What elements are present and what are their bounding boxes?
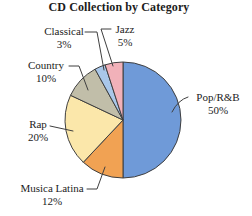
label-classical: Classical 3% (30, 25, 98, 51)
label-country: Country 10% (18, 59, 74, 85)
label-jazz-pct: 5% (105, 36, 145, 49)
label-jazz-name: Jazz (105, 23, 145, 36)
label-classical-pct: 3% (30, 38, 98, 51)
label-rap-pct: 20% (14, 131, 62, 144)
label-rap-name: Rap (14, 118, 62, 131)
label-jazz: Jazz 5% (105, 23, 145, 49)
label-musica-latina-name: Musica Latina (6, 182, 98, 195)
label-rap: Rap 20% (14, 118, 62, 144)
label-country-pct: 10% (18, 72, 74, 85)
label-country-name: Country (18, 59, 74, 72)
chart-container: CD Collection by Category Classical 3% J… (0, 0, 252, 216)
label-pop-rb-pct: 50% (184, 104, 252, 117)
pie-slices (65, 62, 181, 178)
label-musica-latina-pct: 12% (6, 195, 98, 208)
label-musica-latina: Musica Latina 12% (6, 182, 98, 208)
label-pop-rb: Pop/R&B 50% (184, 91, 252, 117)
pie-slice-pop-r-b (123, 62, 181, 178)
label-pop-rb-name: Pop/R&B (184, 91, 252, 104)
label-classical-name: Classical (30, 25, 98, 38)
